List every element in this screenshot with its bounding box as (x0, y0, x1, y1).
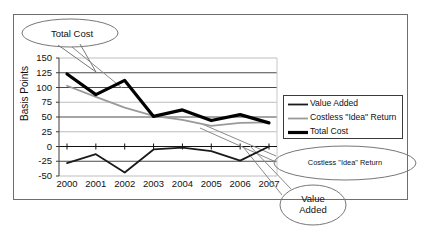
data-series-group (67, 74, 269, 173)
legend-swatch-total-cost (287, 125, 309, 138)
chart-legend: Value Added Costless "Idea" Return Total… (283, 95, 403, 139)
legend-item-total-cost: Total Cost (284, 125, 402, 138)
callout-value-added-line2: Added (299, 204, 326, 215)
chart-figure: Basis Points 1501251007550250-25-50 2000… (0, 0, 439, 235)
legend-item-value-added: Value Added (284, 97, 402, 110)
callout-label-value-added: ValueAdded (289, 193, 337, 215)
legend-swatch-value-added (287, 97, 309, 110)
legend-label-total-cost: Total Cost (310, 125, 348, 138)
callout-label-costless-idea-return: Costless "Idea" Return (300, 157, 390, 168)
legend-item-costless-idea-return: Costless "Idea" Return (284, 111, 402, 124)
callout-value-added-line1: Value (301, 193, 325, 204)
legend-swatch-costless-idea-return (287, 111, 309, 124)
legend-label-costless-idea-return: Costless "Idea" Return (310, 111, 396, 124)
callout-label-total-cost: Total Cost (32, 28, 112, 39)
legend-label-value-added: Value Added (310, 97, 358, 110)
